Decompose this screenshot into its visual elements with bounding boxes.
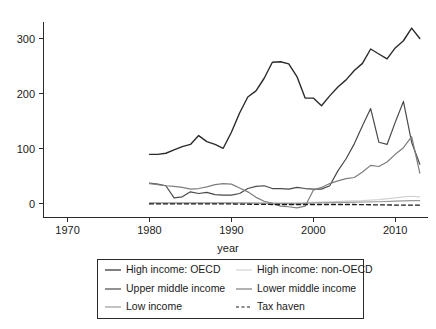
- y-tick-label: 100: [17, 143, 35, 155]
- series-lines: [149, 28, 419, 208]
- series-line-5: [149, 204, 419, 205]
- x-tick-label: 1980: [137, 224, 161, 236]
- x-tick-label: 1970: [55, 224, 79, 236]
- legend-item[interactable]: Upper middle income: [105, 282, 225, 294]
- y-tick-label: 0: [29, 198, 35, 210]
- legend-label-1: High income: non-OECD: [257, 263, 373, 275]
- y-tick-label: 200: [17, 88, 35, 100]
- y-tick-label: 300: [17, 33, 35, 45]
- x-tick-label: 2010: [383, 224, 407, 236]
- legend-label-5: Tax haven: [257, 300, 305, 312]
- series-line-2: [149, 101, 419, 198]
- legend-label-4: Low income: [126, 300, 182, 312]
- legend-item[interactable]: High income: non-OECD: [236, 263, 373, 275]
- legend-item[interactable]: Low income: [105, 300, 182, 312]
- legend-item[interactable]: Lower middle income: [236, 282, 356, 294]
- legend-item[interactable]: High income: OECD: [105, 263, 221, 275]
- legend-item[interactable]: Tax haven: [236, 300, 305, 312]
- tick-labels: 010020030019701980199020002010: [17, 33, 408, 236]
- legend-label-0: High income: OECD: [126, 263, 221, 275]
- legend-label-2: Upper middle income: [126, 282, 225, 294]
- x-tick-label: 1990: [219, 224, 243, 236]
- x-tick-label: 2000: [301, 224, 325, 236]
- series-line-0: [149, 28, 419, 154]
- legend-label-3: Lower middle income: [257, 282, 356, 294]
- line-chart: 010020030019701980199020002010 year High…: [0, 0, 436, 329]
- series-line-3: [149, 137, 419, 208]
- x-axis-title: year: [217, 242, 239, 254]
- chart-container: 010020030019701980199020002010 year High…: [0, 0, 436, 329]
- legend: High income: OECDHigh income: non-OECDUp…: [97, 259, 373, 318]
